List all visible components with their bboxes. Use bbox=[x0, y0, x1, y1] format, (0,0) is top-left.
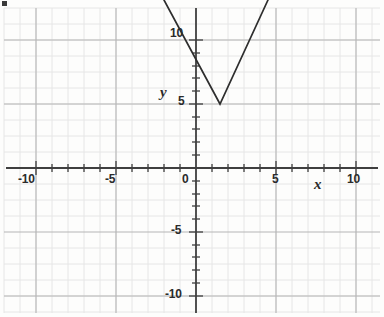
y-tick-label-neg5: -5 bbox=[171, 223, 181, 237]
graph-figure: -10 -5 0 5 10 10 5 -5 -10 y x bbox=[0, 0, 384, 317]
y-axis-label: y bbox=[160, 84, 167, 101]
x-axis-label: x bbox=[314, 176, 322, 193]
origin-label: 0 bbox=[182, 172, 188, 186]
y-tick-label-10: 10 bbox=[170, 26, 183, 40]
y-tick-label-neg10: -10 bbox=[165, 287, 182, 301]
x-tick-label-neg5: -5 bbox=[105, 172, 115, 186]
x-tick-label-5: 5 bbox=[272, 172, 278, 186]
x-tick-label-neg10: -10 bbox=[18, 172, 35, 186]
x-tick-label-10: 10 bbox=[347, 172, 360, 186]
y-tick-label-5: 5 bbox=[178, 94, 184, 108]
coordinate-plane bbox=[0, 0, 384, 317]
